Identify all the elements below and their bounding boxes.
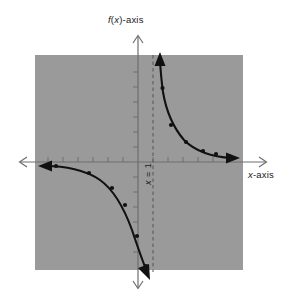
x-axis-label: x-axis [248, 169, 274, 180]
asymptote-label-eq: = 1 [143, 163, 153, 180]
y-axis-label-suffix: -axis [123, 14, 144, 25]
graph-figure: f(x)-axis x-axis x = 1 [0, 0, 292, 302]
x-axis-label-suffix: -axis [253, 169, 274, 180]
function-graph-svg [0, 0, 292, 302]
asymptote-label-var: x [143, 180, 153, 185]
y-axis-label: f(x)-axis [108, 14, 144, 25]
asymptote-label: x = 1 [143, 163, 153, 185]
